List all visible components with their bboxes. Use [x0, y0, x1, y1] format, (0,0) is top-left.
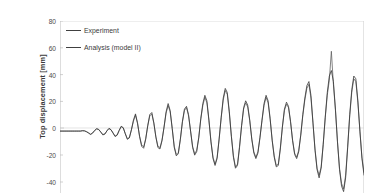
- legend-label: Analysis (model II): [84, 44, 141, 52]
- y-tick-label: -20: [46, 152, 56, 159]
- series-line-experiment: [60, 71, 364, 192]
- y-tick-label: -40: [46, 179, 56, 186]
- y-tick-label: 60: [49, 45, 56, 52]
- legend-line-icon: [66, 30, 81, 31]
- y-tick-label: 40: [49, 72, 56, 79]
- legend-line-icon: [66, 47, 81, 48]
- legend-item-analysis: Analysis (model II): [66, 39, 186, 56]
- y-tick-label: 0: [52, 125, 56, 132]
- y-tick-label: 20: [49, 98, 56, 105]
- chart-container: Top displacement [mm] 80 60 40 20 0 -20 …: [0, 0, 383, 193]
- y-tick-label: 80: [49, 18, 56, 25]
- legend-item-experiment: Experiment: [66, 22, 186, 39]
- legend: Experiment Analysis (model II): [66, 22, 186, 56]
- y-axis-tick-labels: 80 60 40 20 0 -20 -40: [0, 0, 60, 193]
- legend-label: Experiment: [84, 27, 119, 35]
- series-line-analysis: [60, 51, 364, 189]
